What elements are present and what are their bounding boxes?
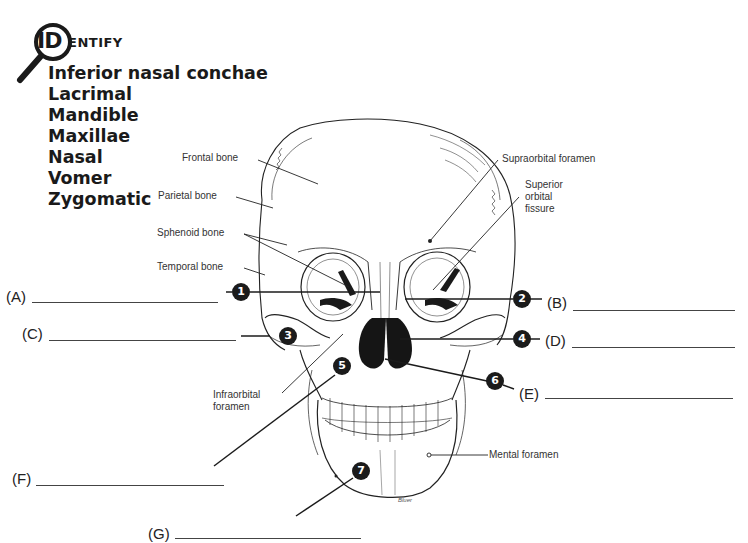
answer-label-e: (E) bbox=[519, 385, 539, 402]
term-maxillae: Maxillae bbox=[48, 126, 268, 147]
marker-1: 1 bbox=[232, 283, 250, 301]
answer-label-b: (B) bbox=[547, 294, 567, 311]
answer-blank-f[interactable] bbox=[36, 485, 224, 486]
label-supraorbital-foramen: Supraorbital foramen bbox=[502, 153, 595, 165]
term-mandible: Mandible bbox=[48, 105, 268, 126]
label-mental-foramen: Mental foramen bbox=[489, 449, 558, 461]
term-vomer: Vomer bbox=[48, 168, 268, 189]
answer-label-g: (G) bbox=[148, 525, 170, 542]
label-sphenoid-bone: Sphenoid bone bbox=[157, 227, 224, 239]
term-inferior-nasal-conchae: Inferior nasal conchae bbox=[48, 63, 268, 84]
term-lacrimal: Lacrimal bbox=[48, 84, 268, 105]
marker-7: 7 bbox=[352, 462, 370, 480]
marker-4: 4 bbox=[513, 330, 531, 348]
label-superior-orbital-fissure: Superior orbital fissure bbox=[525, 179, 563, 215]
answer-label-f: (F) bbox=[12, 470, 31, 487]
label-infraorbital-line2: foramen bbox=[213, 401, 260, 413]
term-list: Inferior nasal conchae Lacrimal Mandible… bbox=[48, 63, 268, 210]
marker-2: 2 bbox=[513, 290, 531, 308]
answer-label-d: (D) bbox=[545, 332, 566, 349]
label-infraorbital-foramen: Infraorbital foramen bbox=[213, 389, 260, 413]
answer-blank-c[interactable] bbox=[49, 340, 236, 341]
label-temporal-bone: Temporal bone bbox=[157, 261, 223, 273]
label-superior-orbital-line2: orbital bbox=[525, 191, 563, 203]
label-superior-orbital-line3: fissure bbox=[525, 203, 563, 215]
marker-5: 5 bbox=[333, 357, 351, 375]
label-frontal-bone: Frontal bone bbox=[182, 152, 238, 164]
label-superior-orbital-line1: Superior bbox=[525, 179, 563, 191]
label-infraorbital-line1: Infraorbital bbox=[213, 389, 260, 401]
answer-label-a: (A) bbox=[6, 288, 26, 305]
answer-blank-d[interactable] bbox=[572, 347, 735, 348]
marker-6: 6 bbox=[486, 372, 504, 390]
answer-label-c: (C) bbox=[22, 325, 43, 342]
marker-3: 3 bbox=[279, 327, 297, 345]
answer-blank-g[interactable] bbox=[175, 538, 361, 539]
logo-entify: ENTIFY bbox=[68, 35, 123, 50]
answer-blank-a[interactable] bbox=[32, 302, 218, 303]
label-parietal-bone: Parietal bone bbox=[158, 190, 217, 202]
logo-id: ID bbox=[37, 28, 61, 53]
answer-blank-b[interactable] bbox=[573, 310, 735, 311]
answer-blank-e[interactable] bbox=[545, 398, 733, 399]
artist-signature: Bluer bbox=[398, 497, 412, 503]
